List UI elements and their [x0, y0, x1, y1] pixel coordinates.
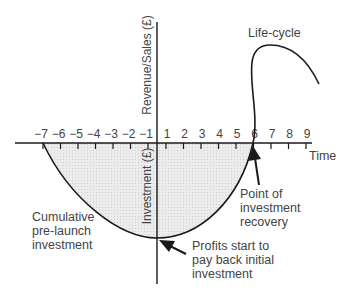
tick-label: −2: [122, 127, 136, 141]
tick-label: 9: [304, 127, 311, 141]
tick-label: −4: [87, 127, 101, 141]
tick-label: 8: [286, 127, 293, 141]
life-cycle-diagram: −7 −6 −5 −4 −3 −2 −1 1 2 3 4 5 6 7 8 9 T…: [0, 0, 355, 300]
payback-arrow-icon: [159, 240, 186, 254]
note-line: investment: [192, 267, 253, 281]
tick-label: −6: [52, 127, 66, 141]
pre-launch-note: Cumulative pre-launch investment: [32, 210, 95, 252]
revenue-axis-label: Revenue/Sales (£): [140, 15, 154, 114]
tick-label: −7: [34, 127, 48, 141]
note-line: recovery: [240, 215, 289, 229]
note-line: investment: [240, 201, 301, 215]
note-line: investment: [32, 238, 93, 252]
investment-axis-label: Investment (£): [140, 148, 154, 225]
note-line: Cumulative: [32, 210, 95, 224]
x-tick-labels: −7 −6 −5 −4 −3 −2 −1 1 2 3 4 5 6 7 8 9: [34, 127, 311, 141]
tick-label: −3: [104, 127, 118, 141]
note-line: pay back initial: [192, 253, 274, 267]
tick-label: −1: [139, 127, 153, 141]
note-line: pre-launch: [32, 224, 91, 238]
tick-label: 5: [234, 127, 241, 141]
tick-label: 2: [181, 127, 188, 141]
time-axis-label: Time: [309, 149, 336, 163]
tick-label: 3: [199, 127, 206, 141]
payback-note: Profits start to pay back initial invest…: [192, 239, 274, 281]
note-line: Point of: [240, 187, 283, 201]
tick-label: −5: [69, 127, 83, 141]
life-cycle-label: Life-cycle: [248, 26, 301, 40]
note-line: Profits start to: [192, 239, 269, 253]
tick-label: 4: [216, 127, 223, 141]
tick-label: 1: [164, 127, 171, 141]
recovery-note: Point of investment recovery: [240, 187, 301, 229]
tick-label: 7: [269, 127, 276, 141]
